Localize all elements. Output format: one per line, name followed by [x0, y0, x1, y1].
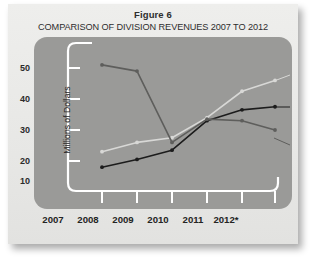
chart-title-block: Figure 6 COMPARISON OF DIVISION REVENUES…	[8, 9, 298, 34]
data-point	[240, 119, 244, 123]
y-axis-title: Millions of Dollars	[62, 64, 72, 176]
page-title: COMPARISON OF DIVISION REVENUES 2007 TO …	[8, 21, 298, 34]
data-point	[100, 165, 104, 169]
chart-plot-area: Millions of Dollars 50 40 30 20 10 Theme…	[34, 37, 292, 209]
data-point	[135, 69, 139, 73]
figure-card: Figure 6 COMPARISON OF DIVISION REVENUES…	[8, 4, 298, 244]
data-point	[100, 63, 104, 67]
series-motion-pictures	[100, 63, 277, 144]
legend-leader-lines	[274, 75, 290, 145]
data-point	[135, 141, 139, 145]
series-theme-parks	[100, 79, 277, 154]
y-tick-50: 50	[8, 64, 30, 73]
data-point	[273, 128, 277, 132]
series-dvd-blue-ray	[100, 105, 277, 169]
series-line	[102, 65, 275, 142]
data-point	[170, 148, 174, 152]
series-line	[102, 80, 275, 151]
data-point	[135, 158, 139, 162]
y-tick-30: 30	[8, 126, 30, 135]
series-line	[102, 107, 275, 167]
x-axis-ticks	[102, 191, 275, 203]
data-series-layer	[100, 63, 277, 169]
data-point	[100, 150, 104, 154]
line-chart-svg	[34, 37, 292, 209]
data-point	[170, 141, 174, 145]
axis-frame	[68, 43, 278, 191]
y-tick-40: 40	[8, 95, 30, 104]
data-point	[240, 89, 244, 93]
figure-label: Figure 6	[8, 9, 298, 21]
y-tick-10: 10	[8, 177, 30, 186]
data-point	[205, 117, 209, 121]
data-point	[240, 108, 244, 112]
x-tick-2012: 2012*	[203, 215, 249, 225]
y-tick-20: 20	[8, 157, 30, 166]
